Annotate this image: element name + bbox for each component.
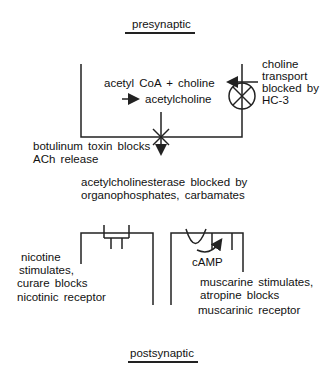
synthesis-reaction-label: acetyl CoA + choline [104, 77, 215, 90]
acetylcholine-label: acetylcholine [145, 93, 211, 106]
botulinum-label-1: botulinum toxin blocks [33, 140, 150, 153]
nicotinic-label-4: nicotinic receptor [17, 291, 106, 304]
nicotinic-label-3: curare blocks [17, 277, 87, 290]
camp-arrow [197, 243, 219, 252]
muscarinic-label-1: muscarine stimulates, [200, 276, 313, 289]
acetylcholinesterase-label-1: acetylcholinesterase blocked by [81, 176, 247, 189]
acetylcholinesterase-label-2: organophosphates, carbamates [81, 189, 245, 202]
nicotinic-label-1: nicotine [21, 251, 61, 264]
muscarinic-label-2: atropine blocks [200, 289, 279, 302]
muscarinic-receptor-icon [186, 229, 232, 250]
nicotinic-receptor-icon [104, 225, 129, 249]
botulinum-label-2: ACh release [33, 153, 98, 166]
ach-release-arrow [153, 112, 169, 150]
nicotinic-label-2: stimulates, [19, 264, 74, 277]
muscarinic-label-3: muscarinic receptor [198, 304, 300, 317]
choline-transport-label-4: HC-3 [262, 94, 289, 107]
camp-label: cAMP [192, 256, 223, 269]
